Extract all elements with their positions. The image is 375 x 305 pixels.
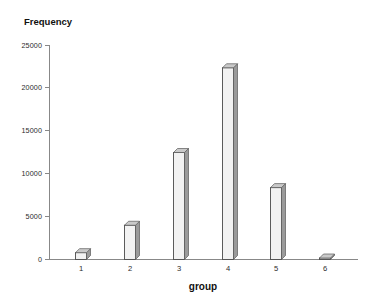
bar-side <box>185 149 189 260</box>
x-tick-label-3: 3 <box>177 264 181 273</box>
x-axis-title: group <box>189 281 217 292</box>
bar-4[interactable] <box>223 64 238 260</box>
y-tick-label-25000: 25000 <box>22 41 43 50</box>
bar-3[interactable] <box>174 149 189 260</box>
x-tick-label-4: 4 <box>226 264 230 273</box>
x-tick-label-1: 1 <box>79 264 83 273</box>
bar-chart: Frequency 0 5000 10000 15000 20000 25000… <box>0 0 375 305</box>
x-tick-label-6: 6 <box>323 264 327 273</box>
chart-page: Frequency 0 5000 10000 15000 20000 25000… <box>0 0 375 305</box>
y-tick-label-0: 0 <box>38 255 42 264</box>
y-tick-labels: 0 5000 10000 15000 20000 25000 <box>22 41 43 264</box>
bar-6[interactable] <box>320 254 335 260</box>
bar-2[interactable] <box>125 221 140 259</box>
y-tick-label-20000: 20000 <box>22 83 43 92</box>
bar-face <box>174 153 185 260</box>
y-tick-label-5000: 5000 <box>26 212 42 221</box>
bar-5[interactable] <box>271 184 286 260</box>
bar-face <box>76 253 87 260</box>
x-tick-labels: 123456 <box>79 264 327 273</box>
bar-face <box>125 225 136 259</box>
y-tick-marks <box>45 46 50 260</box>
x-tick-label-5: 5 <box>274 264 278 273</box>
x-tick-label-2: 2 <box>128 264 132 273</box>
bar-side <box>234 64 238 260</box>
y-tick-label-10000: 10000 <box>22 169 43 178</box>
bar-side <box>136 221 140 259</box>
bar-face <box>271 188 282 260</box>
y-axis-title: Frequency <box>24 16 73 27</box>
bar-face <box>223 68 234 260</box>
y-tick-label-15000: 15000 <box>22 126 43 135</box>
bars-group <box>76 64 335 260</box>
bar-1[interactable] <box>76 249 91 260</box>
bar-side <box>282 184 286 260</box>
